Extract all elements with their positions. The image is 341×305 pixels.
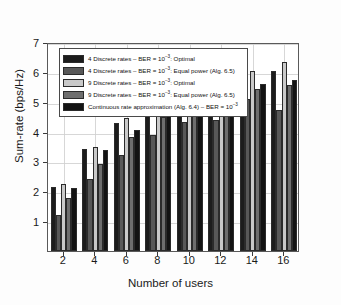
bar: [292, 80, 297, 251]
bar: [71, 188, 76, 251]
y-tick-mark: [43, 162, 47, 163]
y-tick-label: 7: [13, 38, 39, 49]
legend-item: 9 Discrete rates – BER = 10−3: Equal pow…: [63, 89, 244, 100]
bar-group: [271, 44, 297, 251]
legend-item: 4 Discrete rates – BER = 10−3: Equal pow…: [63, 65, 244, 76]
y-tick-label: 5: [13, 98, 39, 109]
x-tick-label: 10: [175, 255, 203, 266]
bar: [166, 113, 171, 251]
x-axis-title: Number of users: [0, 277, 341, 289]
x-tick-label: 12: [206, 255, 234, 266]
legend-swatch: [63, 103, 84, 111]
legend-label: 4 Discrete rates – BER = 10−3: Optimal: [88, 55, 195, 62]
bar: [260, 84, 265, 251]
legend-label: Continuous rate approximation (Alg. 6.4)…: [88, 103, 238, 110]
y-axis-title: Sum-rate (bps/Hz): [13, 41, 25, 191]
bar: [197, 100, 202, 251]
y-tick-label: 2: [13, 187, 39, 198]
legend-label: 9 Discrete rates – BER = 10−3: Optimal: [88, 79, 195, 86]
x-tick-label: 8: [143, 255, 171, 266]
legend-swatch: [63, 91, 84, 99]
y-tick-mark: [43, 222, 47, 223]
legend-swatch: [63, 79, 84, 87]
x-tick-label: 6: [112, 255, 140, 266]
legend-item: 4 Discrete rates – BER = 10−3: Optimal: [63, 53, 244, 64]
y-tick-mark: [43, 43, 47, 44]
legend-swatch: [63, 55, 84, 63]
x-tick-label: 16: [269, 255, 297, 266]
legend-swatch: [63, 67, 84, 75]
legend-item: 9 Discrete rates – BER = 10−3: Optimal: [63, 77, 244, 88]
figure-canvas: Sum-rate (bps/Hz) Number of users 123456…: [0, 0, 341, 305]
legend-label: 4 Discrete rates – BER = 10−3: Equal pow…: [88, 67, 235, 74]
y-tick-mark: [43, 103, 47, 104]
x-tick-label: 4: [80, 255, 108, 266]
x-tick-label: 2: [49, 255, 77, 266]
y-tick-label: 4: [13, 128, 39, 139]
legend-item: Continuous rate approximation (Alg. 6.4)…: [63, 101, 244, 112]
y-tick-mark: [43, 192, 47, 193]
chart-legend: 4 Discrete rates – BER = 10−3: Optimal4 …: [59, 48, 248, 117]
y-tick-mark: [43, 133, 47, 134]
y-tick-label: 3: [13, 157, 39, 168]
y-tick-label: 1: [13, 217, 39, 228]
y-tick-label: 6: [13, 68, 39, 79]
bar: [103, 150, 108, 251]
legend-label: 9 Discrete rates – BER = 10−3: Equal pow…: [88, 91, 235, 98]
bar: [134, 130, 139, 251]
y-tick-mark: [43, 73, 47, 74]
x-tick-label: 14: [238, 255, 266, 266]
